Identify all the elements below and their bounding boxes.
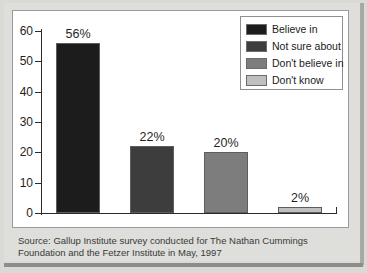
legend-swatch [246, 75, 267, 86]
legend-item-label: Don't know [272, 75, 324, 86]
legend-swatch [246, 41, 267, 52]
figure-right-rule [360, 3, 364, 265]
y-axis-tick-label: 50 [13, 55, 33, 67]
source-note: Source: Gallup Institute survey conducte… [18, 235, 318, 258]
chart-legend: Believe inNot sure aboutDon't believe in… [240, 16, 343, 90]
legend-swatch [246, 24, 267, 35]
y-axis-tick-label: 10 [13, 177, 33, 189]
legend-item-label: Not sure about [272, 41, 341, 52]
y-axis-tick-label: 30 [13, 116, 33, 128]
y-axis-tick-label: 40 [13, 86, 33, 98]
legend-item[interactable]: Don't know [246, 72, 338, 88]
bar-value-label: 56% [65, 28, 90, 41]
legend-item[interactable]: Believe in [246, 21, 338, 37]
y-axis-tick [35, 213, 41, 214]
x-axis-line [41, 213, 337, 214]
bar[interactable] [130, 146, 174, 213]
bar[interactable] [204, 152, 248, 213]
chart-panel: 6050403020100 56%22%20%2% Believe inNot … [12, 10, 349, 228]
bar-column[interactable]: 56% [56, 31, 100, 213]
bar-column[interactable]: 22% [130, 31, 174, 213]
y-axis-tick-label: 60 [13, 25, 33, 37]
bar[interactable] [278, 207, 322, 213]
bar-value-label: 2% [291, 192, 309, 205]
legend-item-label: Believe in [272, 24, 318, 35]
y-axis-tick-label: 20 [13, 146, 33, 158]
figure-container: 6050403020100 56%22%20%2% Believe inNot … [0, 0, 367, 273]
bar-value-label: 22% [139, 131, 164, 144]
legend-item-label: Don't believe in [272, 58, 343, 69]
bar-value-label: 20% [213, 137, 238, 150]
figure-bottom-rule [4, 263, 363, 267]
legend-swatch [246, 58, 267, 69]
legend-item[interactable]: Don't believe in [246, 55, 338, 71]
source-note-line-1: Source: Gallup Institute survey conducte… [18, 235, 318, 247]
legend-item[interactable]: Not sure about [246, 38, 338, 54]
source-note-line-2: Foundation and the Fetzer Institute in M… [18, 247, 318, 259]
bar[interactable] [56, 43, 100, 213]
plot-area: 6050403020100 56%22%20%2% Believe inNot … [13, 11, 348, 227]
y-axis-tick-label: 0 [13, 207, 33, 219]
